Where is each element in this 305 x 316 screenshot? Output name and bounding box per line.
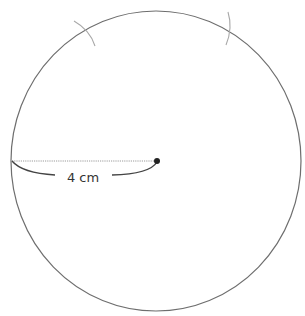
circle-diagram: 4 cm [0,0,305,316]
measurement-bracket-right [112,162,157,175]
radius-label: 4 cm [67,170,99,185]
measurement-bracket-left [12,161,55,175]
construction-arc-right [226,12,230,45]
construction-arc-left [74,21,95,46]
center-point [154,158,160,164]
